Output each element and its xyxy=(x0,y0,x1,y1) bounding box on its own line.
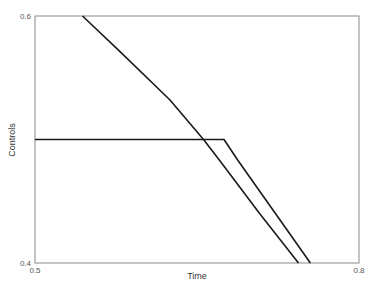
x-axis-label: Time xyxy=(187,271,207,281)
y-axis-label: Controls xyxy=(7,123,17,157)
series-line-control-1 xyxy=(35,140,310,264)
y-tick-max: 0.6 xyxy=(20,12,32,21)
x-tick-max: 0.8 xyxy=(353,266,365,275)
line-chart: 0.6 0.4 0.5 0.8 Time Controls xyxy=(0,0,372,291)
series-layer xyxy=(35,16,310,263)
x-tick-min: 0.5 xyxy=(29,266,41,275)
